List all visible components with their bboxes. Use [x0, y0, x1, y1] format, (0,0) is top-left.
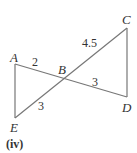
point-label-d: D	[121, 100, 132, 115]
triangle-diagram: A B C D E 2 4.5 3 3 (iv)	[0, 0, 137, 153]
segment-ec	[15, 28, 127, 118]
point-label-a: A	[9, 50, 18, 65]
point-label-b: B	[58, 62, 66, 77]
length-be: 3	[38, 99, 44, 113]
length-bc: 4.5	[82, 36, 97, 50]
length-bd: 3	[92, 75, 98, 89]
point-label-c: C	[122, 12, 131, 27]
length-ab: 2	[32, 55, 38, 69]
figure-caption: (iv)	[6, 137, 23, 151]
point-label-e: E	[9, 120, 18, 135]
